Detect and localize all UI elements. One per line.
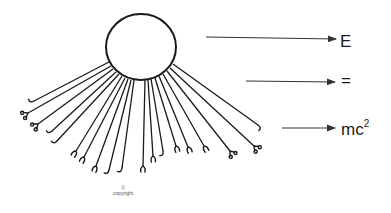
arrow-to-equals-icon [246,81,335,82]
claw-tip-icon [203,146,208,152]
label-mc-exponent: 2 [364,118,370,129]
hook-tip-icon [29,99,34,102]
arrows [206,37,336,128]
label-equals: = [341,71,351,91]
claw-tip-icon [141,166,146,172]
scissors-tip-icon [254,146,261,154]
instrument-ray [148,80,156,162]
instrument-ray [173,64,260,131]
label-mc-squared: mc2 [341,118,369,140]
hook-tip-icon [258,125,260,131]
hook-tip-icon [51,141,57,143]
hook-tip-icon [160,151,163,156]
instrument-ray [31,69,113,131]
claw-tip-icon [79,157,84,163]
head-circle [106,14,176,80]
hook-tip-icon [117,168,122,172]
hook-tip-icon [104,170,109,173]
instrument-ray [29,62,109,102]
arrow-to-e-icon [206,37,336,39]
label-e: E [340,32,351,52]
claw-tip-icon [92,166,97,172]
scissors-tip-icon [229,151,237,158]
copyright-mark: © copyright [110,186,136,196]
instrument-ray [155,78,180,152]
claw-tip-icon [151,156,156,162]
hook-tip-icon [46,131,52,133]
instrument-ray [92,79,128,172]
instrument-ray [141,80,146,172]
claw-tip-icon [187,147,192,153]
scissors-tip-icon [31,123,38,131]
instrument-ray [159,76,192,153]
scissors-tip-icon [21,111,28,119]
copyright-text: copyright [110,191,136,196]
claw-tip-icon [71,151,76,157]
instrument-ray [21,66,111,120]
claw-tip-icon [175,146,180,152]
label-mc-base: mc [341,120,364,139]
einstein-surgical-diagram [0,0,391,213]
